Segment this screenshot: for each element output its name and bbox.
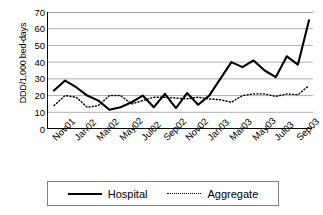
y-axis-tick-label: 30 [23, 74, 45, 83]
y-axis-tick-label: 0 [23, 125, 45, 134]
legend-label-hospital: Hospital [108, 188, 148, 200]
y-axis-tick-label: 20 [23, 91, 45, 100]
y-axis-tick-label: 70 [23, 8, 45, 17]
chart-legend: Hospital Aggregate [47, 181, 279, 206]
y-axis-tick-label: 60 [23, 24, 45, 33]
chart-plot-svg [48, 12, 313, 129]
legend-swatch-solid-line-icon [68, 193, 102, 195]
y-axis-tick-label: 10 [23, 108, 45, 117]
data-series-layer [54, 20, 309, 109]
legend-swatch-dotted-line-icon [167, 193, 201, 194]
legend-item-hospital: Hospital [68, 188, 148, 200]
x-axis-tick-labels: Nov01Jan02Mar02May02Jul02Sep02Nov02Jan03… [47, 129, 317, 189]
plot-area [47, 12, 312, 129]
legend-item-aggregate: Aggregate [167, 188, 258, 200]
chart-container: DDD/1,000 bed-days 706050403020100 Nov01… [0, 0, 323, 215]
y-axis-tick-label: 50 [23, 41, 45, 50]
gridlines [48, 12, 313, 112]
legend-label-aggregate: Aggregate [207, 188, 258, 200]
y-axis-tick-label: 40 [23, 58, 45, 67]
y-axis-tick-labels: 706050403020100 [20, 0, 45, 215]
